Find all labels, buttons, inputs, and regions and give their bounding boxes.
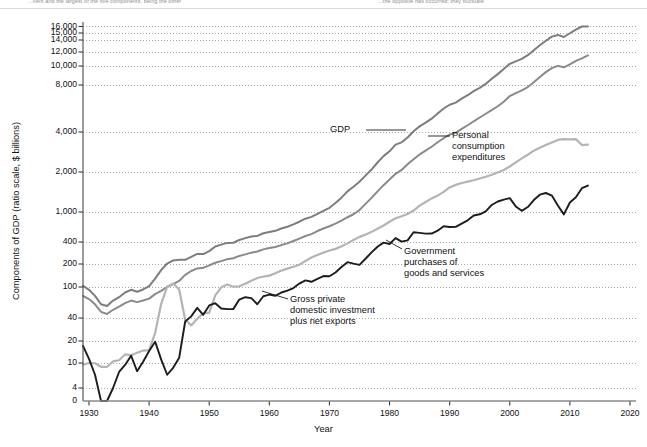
annotation-line: GDP [330,124,350,135]
x-tick-label: 1960 [249,408,289,418]
top-caption-left: ...nent and the largest of the five comp… [28,0,181,4]
y-tick-label: 20 [27,335,77,345]
annotation-line: consumption [452,141,505,152]
x-tick-label: 1990 [430,408,470,418]
annotation-line: domestic investment [290,305,375,316]
annotation-line: Personal [452,130,505,141]
x-tick-label: 1970 [309,408,349,418]
annotation-gross-private-domestic-investment: Gross privatedomestic investmentplus net… [290,294,375,328]
annotation-line: purchases of [404,257,484,268]
y-tick-label: 8,000 [27,79,77,89]
annotation-line: plus net exports [290,316,375,327]
annotation-government-purchases: Governmentpurchases ofgoods and services [404,246,484,280]
series-line [83,139,588,367]
annotation-line: Government [404,246,484,257]
y-tick-label: 10 [27,357,77,367]
chart-canvas [0,0,647,447]
annotation-gdp: GDP [330,124,350,135]
y-tick-label: 400 [27,236,77,246]
top-caption-right: ...the opposite has occurred; they fluct… [378,0,484,4]
chart-figure: ...nent and the largest of the five comp… [0,0,647,447]
y-tick-label: 16,000 [27,21,77,31]
y-tick-label: 12,000 [27,46,77,56]
x-tick-label: 1980 [370,408,410,418]
x-tick-label: 1930 [69,408,109,418]
y-tick-label: 10,000 [27,60,77,70]
x-tick-label: 2020 [610,408,647,418]
x-tick-label: 2010 [550,408,590,418]
gridlines-group [83,27,637,389]
y-tick-label: 40 [27,312,77,322]
y-tick-label: 1,000 [27,206,77,216]
y-axis-title: Components of GDP (ratio scale, $ billio… [11,111,21,311]
y-tick-label: 2,000 [27,166,77,176]
y-tick-label: 100 [27,281,77,291]
x-axis-title: Year [0,424,647,434]
x-tick-label: 2000 [490,408,530,418]
y-tick-label-zero: 0 [27,395,77,405]
y-tick-marks-group [79,27,84,389]
y-tick-label: 4,000 [27,126,77,136]
y-tick-label: 200 [27,258,77,268]
annotation-line: expenditures [452,152,505,163]
x-tick-label: 1940 [129,408,169,418]
data-series-group [83,27,588,402]
y-tick-label: 4 [27,382,77,392]
annotation-personal-consumption-expenditures: Personalconsumptionexpenditures [452,130,505,164]
top-divider [0,8,647,9]
x-tick-label: 1950 [189,408,229,418]
annotation-line: goods and services [404,268,484,279]
annotation-line: Gross private [290,294,375,305]
